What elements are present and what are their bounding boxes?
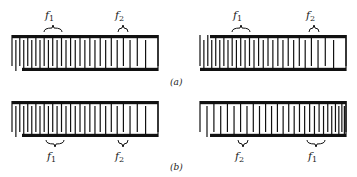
label-a-left-f1: f1 <box>45 10 54 23</box>
label-b-left-f1: f1 <box>47 151 56 164</box>
label-a-right-f1: f1 <box>233 10 242 23</box>
caption-a: (a) <box>170 77 182 87</box>
transducer-a-right <box>200 35 346 71</box>
label-b-right-f2: f2 <box>235 151 244 164</box>
label-b-left-f2: f2 <box>115 151 124 164</box>
label-a-right-f2: f2 <box>306 10 315 23</box>
label-b-right-f1: f1 <box>308 151 317 164</box>
transducer-b-right <box>200 101 346 137</box>
caption-b: (b) <box>170 162 183 172</box>
transducer-a-left <box>12 35 158 71</box>
transducer-b-left <box>12 101 158 137</box>
label-a-left-f2: f2 <box>115 10 124 23</box>
